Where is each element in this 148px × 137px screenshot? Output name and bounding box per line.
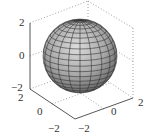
sphere-surface-plot: 2 0 −2 2 0 −2 −2 0 2 [0, 0, 148, 137]
z-tick-0: 0 [19, 50, 25, 61]
y-tick-0: 0 [37, 106, 43, 117]
x-tick-neg2: −2 [78, 123, 90, 134]
sphere [43, 19, 117, 93]
x-tick-2: 2 [138, 97, 144, 108]
x-tick-0: 0 [111, 106, 117, 117]
x-axis [75, 98, 133, 119]
y-tick-neg2: −2 [48, 123, 60, 134]
z-tick-2: 2 [19, 17, 25, 28]
y-tick-2: 2 [18, 92, 24, 103]
